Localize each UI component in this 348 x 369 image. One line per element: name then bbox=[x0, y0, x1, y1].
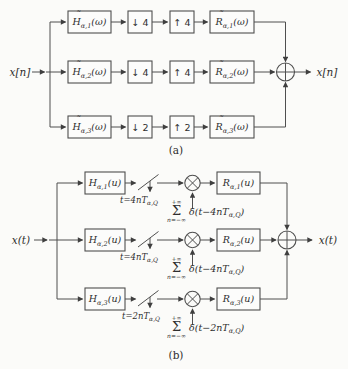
diagram-b: x(t) Hα,1(u) t=4nTα,Q +∞ bbox=[12, 172, 337, 361]
sampling-time-label: t=4nTα,Q bbox=[120, 195, 158, 206]
sum-lower-limit: n=−∞ bbox=[167, 332, 186, 339]
multiplier bbox=[185, 291, 200, 306]
multiplier bbox=[185, 175, 200, 190]
sampling-time-label: t=2nTα,Q bbox=[122, 311, 160, 322]
downsampler-label: ↓ 2 bbox=[131, 122, 148, 133]
sampling-time-label: t=4nTα,Q bbox=[120, 252, 158, 263]
upsampler-label: ↑ 4 bbox=[173, 67, 190, 78]
multiplier bbox=[185, 232, 200, 247]
input-label-a: x[n] bbox=[10, 66, 32, 78]
impulse-train-label: +∞ Σ n=−∞ δ(t−4nTα,Q) bbox=[167, 255, 244, 281]
switch-arm bbox=[138, 232, 159, 248]
delta-term: δ(t−4nTα,Q) bbox=[189, 263, 245, 277]
impulse-train-label: +∞ Σ n=−∞ δ(t−2nTα,Q) bbox=[167, 314, 244, 340]
diagram-a: x[n] Hα,1(ω) ˜ ↓ 4 ↑ 4 Rα,1(ω) ˜ bbox=[10, 9, 339, 156]
output-label-b: x(t) bbox=[319, 234, 337, 246]
figure-canvas: x[n] Hα,1(ω) ˜ ↓ 4 ↑ 4 Rα,1(ω) ˜ bbox=[0, 0, 348, 369]
input-label-b: x(t) bbox=[12, 234, 30, 246]
branch-b-3: Hα,3(u) t=2nTα,Q +∞ Σ n=−∞ δ(t−2nTα,Q) bbox=[85, 251, 287, 340]
upsampler-label: ↑ 4 bbox=[173, 17, 190, 28]
wire bbox=[260, 251, 287, 300]
switch-arm bbox=[138, 175, 159, 191]
adder-b bbox=[278, 231, 296, 249]
sampler-switch bbox=[138, 291, 159, 308]
branch-a-1: Hα,1(ω) ˜ ↓ 4 ↑ 4 Rα,1(ω) ˜ bbox=[68, 9, 286, 62]
branch-a-3: Hα,3(ω) ˜ ↓ 2 ↑ 2 Rα,3(ω) ˜ bbox=[68, 83, 286, 139]
filter-bank-figure: x[n] Hα,1(ω) ˜ ↓ 4 ↑ 4 Rα,1(ω) ˜ bbox=[0, 0, 348, 369]
sampler-switch bbox=[138, 175, 159, 192]
branch-b-1: Hα,1(u) t=4nTα,Q +∞ Σ n=−∞ δ(t−4nTα,Q) bbox=[85, 172, 287, 230]
impulse-train-label: +∞ Σ n=−∞ δ(t−4nTα,Q) bbox=[167, 198, 244, 224]
delta-term: δ(t−4nTα,Q) bbox=[189, 206, 245, 220]
wire bbox=[254, 22, 286, 62]
caption-b: (b) bbox=[169, 349, 184, 361]
delta-term: δ(t−2nTα,Q) bbox=[189, 322, 245, 336]
branch-a-2: Hα,2(ω) ˜ ↓ 4 ↑ 4 Rα,2(ω) ˜ bbox=[68, 59, 275, 83]
caption-a: (a) bbox=[169, 144, 183, 156]
wire bbox=[260, 183, 287, 230]
adder-a bbox=[277, 63, 295, 81]
output-label-a: x[n] bbox=[317, 66, 339, 78]
sampler-switch bbox=[138, 232, 159, 249]
switch-arm bbox=[138, 291, 159, 307]
downsampler-label: ↓ 4 bbox=[131, 17, 148, 28]
wire bbox=[254, 83, 286, 128]
branch-b-2: Hα,2(u) t=4nTα,Q +∞ Σ n=−∞ δ(t−4nTα,Q) bbox=[85, 229, 276, 280]
sum-lower-limit: n=−∞ bbox=[167, 216, 186, 223]
upsampler-label: ↑ 2 bbox=[173, 122, 190, 133]
downsampler-label: ↓ 4 bbox=[131, 67, 148, 78]
sum-lower-limit: n=−∞ bbox=[167, 273, 186, 280]
